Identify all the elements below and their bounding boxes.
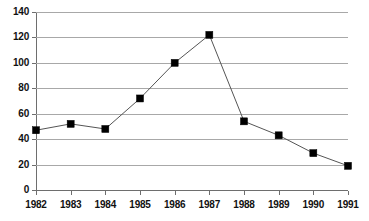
data-point-1990 — [310, 150, 317, 157]
data-point-1985 — [137, 95, 144, 102]
data-point-1986 — [171, 59, 178, 66]
data-point-1987 — [206, 31, 213, 38]
line-chart: 020406080100120140 198219831984198519861… — [0, 0, 369, 221]
data-point-1989 — [275, 132, 282, 139]
data-point-1988 — [241, 118, 248, 125]
data-point-1983 — [67, 120, 74, 127]
data-point-1991 — [345, 162, 352, 169]
data-point-1982 — [33, 127, 40, 134]
series-line — [36, 35, 348, 166]
data-series — [0, 0, 369, 221]
data-point-1984 — [102, 125, 109, 132]
